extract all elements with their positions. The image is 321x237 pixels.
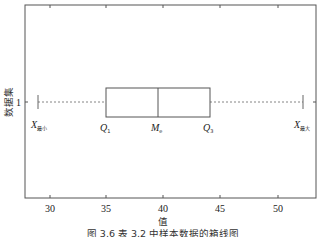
annotation-median: Me bbox=[150, 122, 162, 134]
y-tick-label: 1 bbox=[16, 97, 21, 108]
boxplot-chart: 30 35 40 45 50 1 数据集 值 图 3.6 表 3.2 中样本数据… bbox=[0, 0, 321, 237]
annotation-q1: Q1 bbox=[100, 122, 110, 134]
annotation-min: X最小 bbox=[30, 119, 47, 132]
x-tick-label: 50 bbox=[273, 203, 283, 214]
x-axis-label: 值 bbox=[158, 216, 168, 227]
annotation-max: X最大 bbox=[293, 119, 310, 132]
x-tick-label: 40 bbox=[158, 203, 168, 214]
annotation-q3: Q3 bbox=[203, 122, 213, 134]
plot-frame bbox=[25, 5, 316, 198]
figure-caption: 图 3.6 表 3.2 中样本数据的箱线图 bbox=[87, 228, 239, 237]
x-tick-label: 45 bbox=[215, 203, 225, 214]
x-ticks bbox=[50, 5, 278, 198]
x-tick-label: 30 bbox=[45, 203, 55, 214]
svg-text:Me: Me bbox=[150, 122, 162, 134]
svg-text:Q3: Q3 bbox=[203, 122, 213, 134]
y-axis-label: 数据集 bbox=[3, 87, 14, 117]
x-tick-label: 35 bbox=[101, 203, 111, 214]
svg-text:Q1: Q1 bbox=[100, 122, 110, 134]
svg-text:X最小: X最小 bbox=[30, 119, 47, 132]
svg-text:X最大: X最大 bbox=[293, 119, 310, 132]
